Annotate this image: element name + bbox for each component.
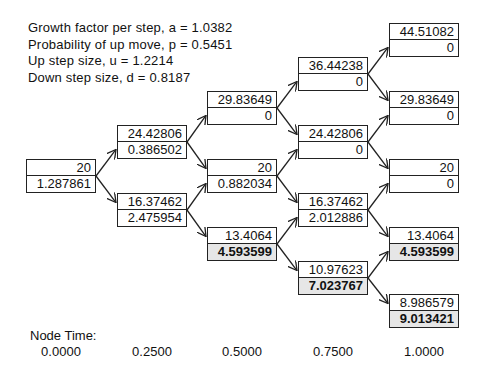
- node-option-value: 0: [208, 108, 276, 124]
- tree-node: 24.428060: [298, 125, 368, 159]
- node-price: 20: [27, 160, 95, 176]
- node-option-value: 4.593599: [390, 244, 458, 260]
- node-price: 16.37462: [118, 194, 186, 210]
- node-time-1: 0.2500: [117, 344, 187, 359]
- node-price: 13.4064: [390, 228, 458, 244]
- node-price: 36.44238: [299, 58, 367, 74]
- node-option-value: 0.386502: [118, 142, 186, 158]
- node-price: 29.83649: [390, 92, 458, 108]
- node-option-value: 7.023767: [299, 278, 367, 294]
- node-price: 16.37462: [299, 194, 367, 210]
- node-price: 29.83649: [208, 92, 276, 108]
- tree-node: 36.442380: [298, 57, 368, 91]
- node-price: 24.42806: [118, 126, 186, 142]
- node-option-value: 0: [299, 74, 367, 90]
- node-time-4: 1.0000: [389, 344, 459, 359]
- node-option-value: 1.287861: [27, 176, 95, 192]
- node-option-value: 9.013421: [390, 311, 458, 327]
- node-price: 8.986579: [390, 295, 458, 311]
- node-price: 10.97623: [299, 262, 367, 278]
- node-option-value: 0: [390, 40, 458, 56]
- node-option-value: 2.475954: [118, 210, 186, 226]
- node-option-value: 0: [390, 176, 458, 192]
- tree-node: 13.40644.593599: [389, 227, 459, 261]
- node-price: 13.4064: [208, 228, 276, 244]
- node-option-value: 2.012886: [299, 210, 367, 226]
- node-time-2: 0.5000: [207, 344, 277, 359]
- node-price: 44.51082: [390, 24, 458, 40]
- node-time-0: 0.0000: [26, 344, 96, 359]
- tree-node: 24.428060.386502: [117, 125, 187, 159]
- node-price: 20: [208, 160, 276, 176]
- node-price: 24.42806: [299, 126, 367, 142]
- tree-node: 201.287861: [26, 159, 96, 193]
- node-time-label: Node Time:: [30, 328, 96, 343]
- tree-node: 8.9865799.013421: [389, 294, 459, 328]
- tree-node: 16.374622.475954: [117, 193, 187, 227]
- node-option-value: 0: [390, 108, 458, 124]
- node-option-value: 4.593599: [208, 244, 276, 260]
- tree-node: 29.836490: [389, 91, 459, 125]
- tree-node: 200.882034: [207, 159, 277, 193]
- tree-node: 29.836490: [207, 91, 277, 125]
- tree-node: 16.374622.012886: [298, 193, 368, 227]
- node-option-value: 0.882034: [208, 176, 276, 192]
- node-price: 20: [390, 160, 458, 176]
- tree-node: 13.40644.593599: [207, 227, 277, 261]
- tree-node: 44.510820: [389, 23, 459, 57]
- tree-node: 200: [389, 159, 459, 193]
- node-time-3: 0.7500: [298, 344, 368, 359]
- node-option-value: 0: [299, 142, 367, 158]
- tree-node: 10.976237.023767: [298, 261, 368, 295]
